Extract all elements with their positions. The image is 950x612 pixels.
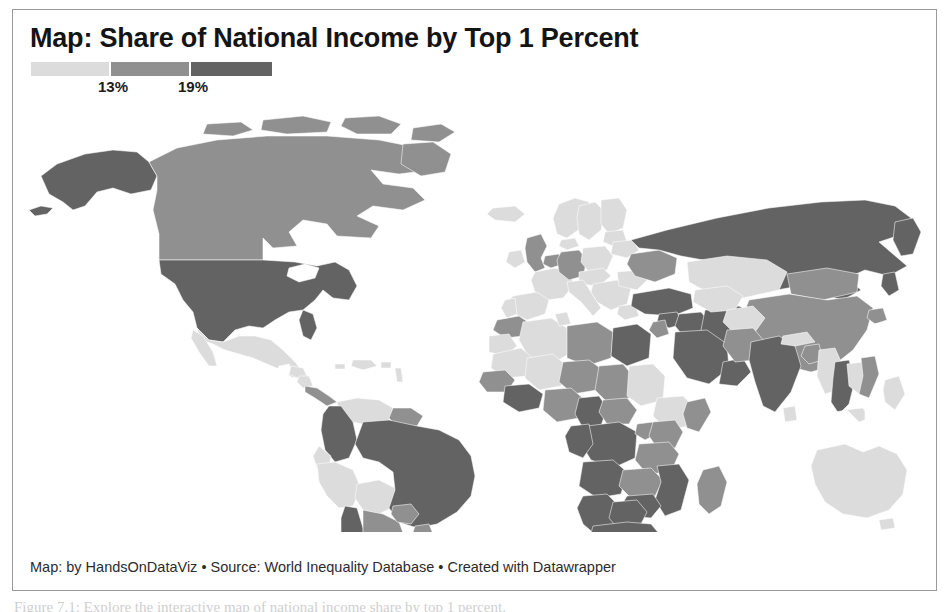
region-tasmania[interactable] bbox=[879, 518, 895, 530]
region-philippines[interactable] bbox=[883, 376, 905, 410]
region-portugal[interactable] bbox=[501, 298, 517, 318]
region-aleutian-islands[interactable] bbox=[29, 206, 53, 216]
region-peru[interactable] bbox=[317, 462, 361, 508]
region-sri-lanka[interactable] bbox=[783, 406, 797, 422]
region-us-florida[interactable] bbox=[299, 310, 317, 340]
region-canada[interactable] bbox=[149, 136, 441, 260]
region-canada-arctic-2[interactable] bbox=[341, 116, 401, 134]
region-russia-kamchatka[interactable] bbox=[893, 218, 921, 256]
region-turkey[interactable] bbox=[631, 288, 693, 316]
region-poland[interactable] bbox=[581, 246, 613, 272]
region-egypt[interactable] bbox=[611, 324, 651, 366]
world-choropleth-map[interactable] bbox=[27, 114, 922, 532]
region-japan[interactable] bbox=[891, 298, 913, 346]
region-denmark[interactable] bbox=[559, 238, 579, 250]
region-central-african-rep[interactable] bbox=[599, 398, 637, 424]
region-indonesia-borneo[interactable] bbox=[865, 406, 897, 430]
region-bolivia[interactable] bbox=[355, 480, 395, 514]
region-new-zealand[interactable] bbox=[913, 490, 922, 512]
map-legend: 13% 19% bbox=[31, 62, 331, 108]
region-sakhalin[interactable] bbox=[881, 272, 899, 296]
region-libya[interactable] bbox=[567, 322, 613, 366]
region-papua-new-guinea[interactable] bbox=[897, 422, 922, 444]
region-madagascar[interactable] bbox=[697, 466, 727, 514]
page-caption-cropped: Figure 7.1: Explore the interactive map … bbox=[14, 598, 914, 612]
region-chile[interactable] bbox=[341, 506, 365, 532]
region-finland[interactable] bbox=[601, 198, 627, 234]
region-lesser-antilles[interactable] bbox=[395, 368, 403, 382]
region-canada-arctic-4[interactable] bbox=[411, 124, 455, 142]
chart-footer-credits: Map: by HandsOnDataViz • Source: World I… bbox=[30, 558, 910, 576]
region-israel-jordan[interactable] bbox=[649, 320, 669, 338]
legend-swatch-high bbox=[191, 62, 272, 76]
region-alaska[interactable] bbox=[41, 150, 157, 210]
chart-figure: Map: Share of National Income by Top 1 P… bbox=[12, 9, 937, 591]
region-greenland[interactable] bbox=[457, 116, 567, 212]
screenshot-page: Map: Share of National Income by Top 1 P… bbox=[0, 0, 950, 612]
legend-color-bar bbox=[31, 62, 272, 76]
region-canada-arctic-1[interactable] bbox=[261, 116, 331, 134]
region-ireland[interactable] bbox=[506, 250, 525, 268]
region-cuba[interactable] bbox=[309, 346, 349, 360]
region-canada-arctic-3[interactable] bbox=[203, 122, 253, 136]
region-india[interactable] bbox=[749, 336, 801, 412]
region-australia[interactable] bbox=[811, 444, 907, 518]
region-north-korea[interactable] bbox=[867, 308, 887, 324]
region-jamaica[interactable] bbox=[335, 364, 345, 369]
region-south-korea[interactable] bbox=[871, 322, 889, 336]
region-somalia[interactable] bbox=[683, 398, 711, 432]
region-puerto-rico[interactable] bbox=[381, 362, 391, 368]
page-title: Map: Share of National Income by Top 1 P… bbox=[30, 22, 910, 54]
legend-tick-13: 13% bbox=[98, 77, 128, 97]
region-hispaniola[interactable] bbox=[351, 360, 377, 370]
region-united-states[interactable] bbox=[159, 260, 357, 342]
region-united-kingdom[interactable] bbox=[525, 234, 547, 272]
region-indonesia-java[interactable] bbox=[849, 434, 889, 448]
region-mali[interactable] bbox=[525, 354, 567, 390]
legend-swatch-low bbox=[31, 62, 111, 76]
region-costa-rica-panama[interactable] bbox=[305, 386, 337, 406]
legend-tick-labels: 13% 19% bbox=[31, 77, 291, 99]
map-svg bbox=[27, 114, 922, 532]
region-mozambique[interactable] bbox=[655, 464, 689, 516]
legend-tick-19: 19% bbox=[178, 77, 208, 97]
region-angola[interactable] bbox=[579, 460, 627, 498]
legend-swatch-mid bbox=[111, 62, 191, 76]
